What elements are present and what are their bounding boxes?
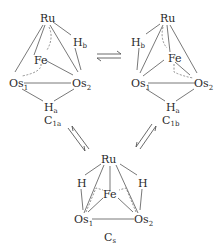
bond-ru-fe bbox=[167, 25, 170, 52]
structure-label-cs: Cs bbox=[104, 231, 116, 245]
bond-fe-os1 bbox=[88, 198, 103, 212]
bond-ru-os2 bbox=[116, 165, 138, 213]
dashed-bridge-fe-os2 bbox=[174, 64, 193, 78]
bond-h-right-os2 bbox=[140, 189, 142, 210]
dashed-bridge-ru-fe bbox=[47, 27, 51, 50]
bond-ru-hb bbox=[146, 24, 160, 34]
equilibrium-arrows-c1a-c1b bbox=[97, 51, 121, 61]
atom-fe: Fe bbox=[168, 52, 182, 65]
atom-fe: Fe bbox=[103, 188, 117, 201]
atom-fe: Fe bbox=[34, 54, 48, 67]
atom-ru: Ru bbox=[160, 12, 175, 25]
bond-ha-os2 bbox=[176, 89, 194, 101]
atom-os2: Os2 bbox=[134, 213, 153, 228]
atom-hb: Hb bbox=[73, 36, 88, 50]
atom-ru: Ru bbox=[101, 153, 116, 166]
bond-ha-os2 bbox=[54, 89, 74, 101]
atom-ru: Ru bbox=[40, 12, 55, 25]
atom-hb: Hb bbox=[131, 36, 146, 50]
structure-c1a: Ru Fe Hb Os1 Os2 Ha C1a bbox=[9, 12, 91, 128]
atom-h-left: H bbox=[77, 177, 87, 190]
bond-hb-os1 bbox=[137, 48, 139, 70]
bond-ru-h-right bbox=[120, 164, 137, 175]
atom-os1: Os1 bbox=[74, 213, 93, 228]
atom-h-right: H bbox=[138, 177, 148, 190]
atom-os1: Os1 bbox=[131, 77, 150, 92]
arrow-forward-head bbox=[117, 51, 121, 54]
structure-label-c1b: C1b bbox=[162, 114, 180, 128]
atom-ha: Ha bbox=[44, 101, 58, 115]
equilibrium-arrows-c1a-cs bbox=[68, 126, 89, 151]
structure-c1b: Ru Fe Hb Os1 Os2 Ha C1b bbox=[131, 12, 213, 128]
structure-cs: Ru Fe H H Os1 Os2 Cs bbox=[74, 153, 153, 245]
isomer-equilibrium-diagram: Ru Fe Hb Os1 Os2 Ha C1a Ru Fe Hb Os1 Os2… bbox=[0, 0, 219, 249]
bond-hb-os2 bbox=[75, 48, 81, 70]
bond-h-left-os1 bbox=[81, 189, 83, 210]
bond-ru-fe bbox=[34, 25, 45, 55]
dashed-bridge-ru-fe bbox=[162, 27, 167, 48]
arrow-reverse-head bbox=[97, 58, 101, 61]
atom-os2: Os2 bbox=[72, 77, 91, 92]
atom-os2: Os2 bbox=[194, 77, 213, 92]
bond-fe-os2 bbox=[118, 198, 133, 212]
bond-ru-os1 bbox=[84, 165, 104, 213]
bond-fe-os1 bbox=[143, 60, 164, 76]
atom-os1: Os1 bbox=[9, 77, 28, 92]
dashed-bridge-right bbox=[119, 188, 136, 212]
structure-label-c1a: C1a bbox=[44, 114, 61, 128]
bond-fe-os2 bbox=[45, 60, 73, 75]
bond-ru-h-left bbox=[85, 164, 101, 175]
bond-ru-hb bbox=[53, 22, 71, 35]
atom-ha: Ha bbox=[166, 101, 180, 115]
equilibrium-arrows-c1b-cs bbox=[136, 124, 156, 149]
